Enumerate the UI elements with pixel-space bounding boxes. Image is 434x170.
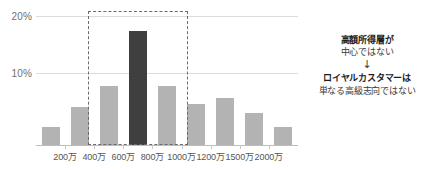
- x-tick-label-2: 600万: [112, 150, 136, 163]
- y-axis-label-20: 20%: [2, 11, 32, 22]
- bar-1: [71, 107, 89, 145]
- x-tick-4: [182, 145, 183, 149]
- y-axis-label-10: 10%: [2, 68, 32, 79]
- x-tick-label-1: 400万: [82, 150, 106, 163]
- annotation-line-1: 高額所得層が: [300, 34, 434, 46]
- x-tick-label-6: 1500万: [226, 150, 255, 163]
- annotation-line-4: 単なる高級志向ではない: [300, 85, 434, 97]
- chart-figure: 20% 10% 200万400万600万800万1000万1200万1500万2…: [0, 0, 434, 170]
- x-tick-label-0: 200万: [53, 150, 77, 163]
- x-tick-3: [152, 145, 153, 149]
- x-tick-5: [211, 145, 212, 149]
- annotation-line-2: 中心ではない: [300, 46, 434, 58]
- x-axis-line: [36, 145, 298, 146]
- x-tick-2: [123, 145, 124, 149]
- down-arrow-icon: ↓: [300, 59, 434, 71]
- x-tick-label-4: 1000万: [167, 150, 196, 163]
- highlight-region-box: [88, 11, 188, 145]
- bar-6: [216, 98, 234, 145]
- x-tick-label-7: 2000万: [255, 150, 284, 163]
- annotation-line-3: ロイヤルカスタマーは: [300, 72, 434, 84]
- plot-area: 20% 10% 200万400万600万800万1000万1200万1500万2…: [0, 0, 300, 170]
- bar-5: [187, 104, 205, 145]
- x-tick-1: [94, 145, 95, 149]
- x-tick-6: [240, 145, 241, 149]
- x-tick-7: [269, 145, 270, 149]
- x-tick-label-5: 1200万: [196, 150, 225, 163]
- bar-8: [274, 127, 292, 145]
- x-tick-label-3: 800万: [141, 150, 165, 163]
- bar-0: [42, 127, 60, 145]
- x-tick-0: [65, 145, 66, 149]
- bar-7: [245, 113, 263, 145]
- annotation-callout: 高額所得層が 中心ではない ↓ ロイヤルカスタマーは 単なる高級志向ではない: [300, 34, 434, 97]
